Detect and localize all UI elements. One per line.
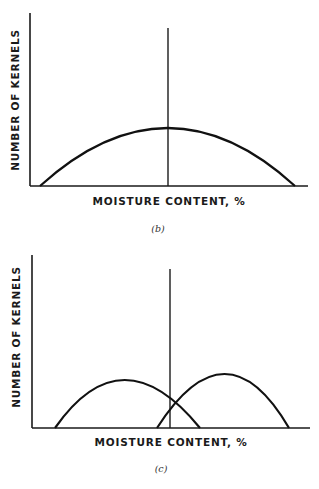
x-axis-label-c: MOISTURE CONTENT, %: [94, 436, 247, 448]
y-axis-label-b: NUMBER OF KERNELS: [9, 29, 21, 171]
caption-c: (c): [155, 463, 168, 474]
figure: NUMBER OF KERNELS MOISTURE CONTENT, % (b…: [0, 0, 319, 489]
caption-b: (b): [151, 223, 165, 234]
panel-c: NUMBER OF KERNELS MOISTURE CONTENT, % (c…: [10, 255, 310, 474]
x-axis-label-b: MOISTURE CONTENT, %: [92, 195, 245, 207]
y-axis-label-c: NUMBER OF KERNELS: [10, 266, 22, 408]
distribution-curve-left-c: [55, 380, 200, 428]
panel-b: NUMBER OF KERNELS MOISTURE CONTENT, % (b…: [9, 13, 308, 234]
distribution-curve-right-c: [157, 374, 289, 428]
